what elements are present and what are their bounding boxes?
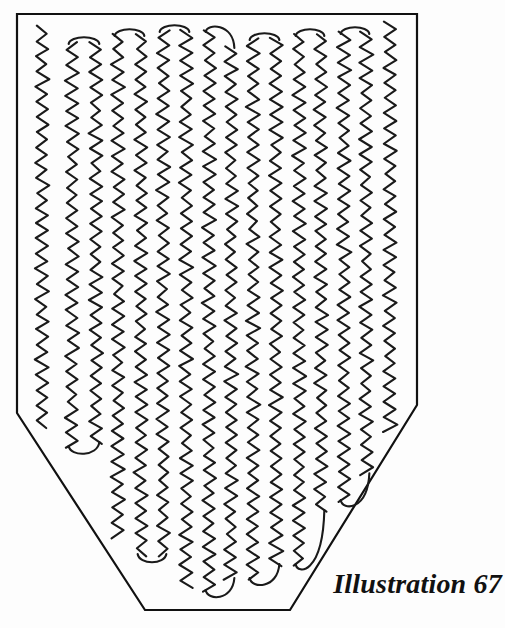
zigzag-column xyxy=(359,32,373,475)
zigzag-turn-top xyxy=(250,33,280,40)
zigzag-column xyxy=(337,32,352,502)
zigzag-column xyxy=(35,26,49,428)
zigzag-turn-top xyxy=(69,37,100,44)
zigzag-scribble-group xyxy=(35,22,397,597)
zigzag-column xyxy=(179,30,193,588)
zigzag-turn-top xyxy=(206,27,235,48)
zigzag-column xyxy=(111,34,125,539)
figure-caption: Illustration 67 xyxy=(330,568,502,600)
zigzag-column xyxy=(224,46,238,579)
zigzag-column xyxy=(156,30,170,556)
zigzag-column xyxy=(292,34,306,566)
illustration-page: Illustration 67 xyxy=(0,0,505,628)
zigzag-column xyxy=(65,42,79,448)
zigzag-turn-top xyxy=(115,29,145,36)
zigzag-turn-top xyxy=(296,29,325,36)
zigzag-column xyxy=(202,30,216,591)
zigzag-column xyxy=(89,42,103,444)
zigzag-column xyxy=(269,38,283,566)
zigzag-column xyxy=(314,34,328,511)
zigzag-turn-top xyxy=(341,27,370,34)
zigzag-column xyxy=(246,38,261,579)
zigzag-turn-bottom xyxy=(138,554,167,562)
zigzag-column xyxy=(134,34,148,556)
zigzag-column xyxy=(383,22,397,432)
illustration-figure xyxy=(0,0,505,628)
zigzag-turn-top xyxy=(160,25,190,32)
